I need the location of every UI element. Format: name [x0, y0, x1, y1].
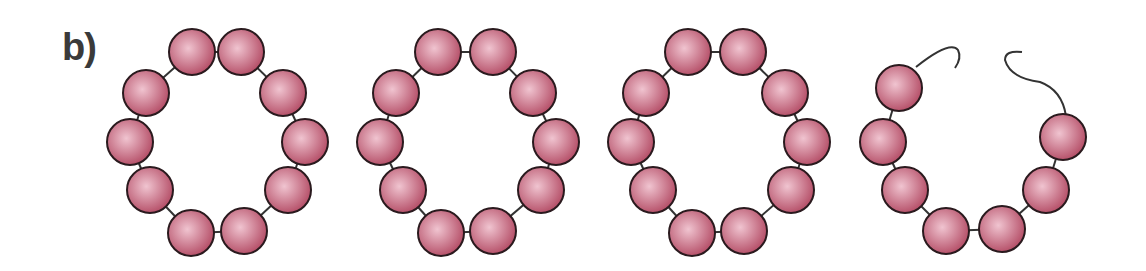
bead: [630, 167, 676, 213]
bead: [127, 167, 173, 213]
bead-ring-diagram: [0, 0, 1146, 271]
bead: [665, 29, 711, 75]
rings-group: [107, 29, 1086, 256]
bead: [721, 208, 767, 254]
bead: [876, 65, 922, 111]
bead: [768, 167, 814, 213]
ring-3: [608, 29, 830, 256]
bead: [260, 70, 306, 116]
bead: [265, 167, 311, 213]
bead: [762, 70, 808, 116]
loose-strand-end: [916, 47, 959, 68]
bead: [107, 119, 153, 165]
bead: [1023, 167, 1069, 213]
bead: [357, 119, 403, 165]
bead: [380, 167, 426, 213]
bead: [882, 167, 928, 213]
bead: [720, 29, 766, 75]
bead: [218, 29, 264, 75]
bead: [168, 210, 214, 256]
bead: [221, 208, 267, 254]
bead: [470, 29, 516, 75]
loose-strand-end: [1005, 52, 1066, 116]
bead: [418, 210, 464, 256]
ring-4: [860, 47, 1086, 254]
bead: [608, 119, 654, 165]
bead: [169, 29, 215, 75]
bead: [282, 119, 328, 165]
ring-2: [357, 29, 579, 256]
bead: [518, 167, 564, 213]
bead: [1040, 114, 1086, 160]
bead: [669, 210, 715, 256]
bead: [979, 206, 1025, 252]
bead: [784, 119, 830, 165]
bead: [923, 208, 969, 254]
bead: [510, 70, 556, 116]
bead: [533, 119, 579, 165]
bead: [415, 29, 461, 75]
bead: [860, 119, 906, 165]
bead: [373, 70, 419, 116]
bead: [123, 70, 169, 116]
bead: [623, 70, 669, 116]
ring-1: [107, 29, 328, 256]
bead: [470, 208, 516, 254]
